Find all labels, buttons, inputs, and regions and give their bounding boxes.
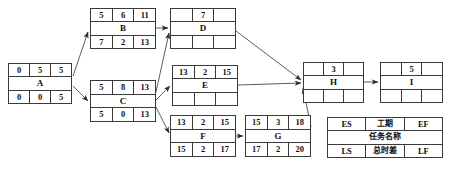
node-g-name: G <box>246 130 310 143</box>
node-d[interactable]: 7 D <box>170 8 236 49</box>
node-a-name-row: A <box>9 76 71 90</box>
node-h-es <box>304 63 323 75</box>
node-h-bottom-row <box>304 90 363 102</box>
node-g-ls: 17 <box>246 143 267 156</box>
node-h-ls <box>304 90 323 102</box>
node-h-top-row: 3 <box>304 63 363 75</box>
node-f-name-row: F <box>171 129 235 144</box>
node-d-name: D <box>171 22 235 34</box>
node-d-tf <box>192 36 214 48</box>
node-e-lf <box>215 93 237 105</box>
node-i-ls <box>381 90 401 102</box>
legend-top-row: ES 工期 EF <box>328 118 442 130</box>
node-i-lf <box>421 90 442 102</box>
edge-c-to-e <box>156 86 170 100</box>
node-d-es <box>171 9 192 21</box>
legend-name-row: 任务名称 <box>328 130 442 144</box>
node-d-ls <box>171 36 192 48</box>
node-e-name-row: E <box>173 78 237 92</box>
node-c-name: C <box>91 95 155 108</box>
node-d-lf <box>213 36 235 48</box>
node-b-ef: 11 <box>133 9 155 21</box>
node-g-name-row: G <box>246 129 310 144</box>
node-h-name-row: H <box>304 75 363 89</box>
node-f[interactable]: 13 2 15 F 15 2 17 <box>170 115 236 157</box>
node-f-ls: 15 <box>171 143 192 156</box>
node-a-name: A <box>9 77 71 89</box>
legend-ef-label: EF <box>404 118 442 130</box>
node-i-ef <box>421 63 442 75</box>
node-g-top-row: 15 3 18 <box>246 116 310 129</box>
node-b[interactable]: 5 6 11 B 7 2 13 <box>90 8 156 49</box>
edge-c-to-d <box>156 33 169 92</box>
node-c-name-row: C <box>91 94 155 109</box>
node-i-es <box>381 63 401 75</box>
network-diagram-canvas: 0 5 5 A 0 0 5 5 6 11 B 7 2 13 5 <box>0 0 450 169</box>
node-i-name: I <box>381 76 442 88</box>
node-i-tf <box>401 90 422 102</box>
node-h-ef <box>343 63 363 75</box>
node-g-tf: 2 <box>267 143 289 156</box>
node-c[interactable]: 5 8 13 C 5 0 13 <box>90 80 156 122</box>
node-c-ls: 5 <box>91 108 112 121</box>
node-c-ef: 13 <box>133 81 155 94</box>
node-b-top-row: 5 6 11 <box>91 9 155 21</box>
legend-es-label: ES <box>328 118 365 130</box>
node-e-name: E <box>173 79 237 91</box>
node-b-name: B <box>91 22 155 34</box>
node-e-es: 13 <box>173 66 194 78</box>
node-g[interactable]: 15 3 18 G 17 2 20 <box>245 115 311 157</box>
node-h-name: H <box>304 76 363 88</box>
node-e-top-row: 13 2 15 <box>173 66 237 78</box>
node-a-top-row: 0 5 5 <box>9 64 71 76</box>
node-a-ls: 0 <box>9 91 29 103</box>
node-a[interactable]: 0 5 5 A 0 0 5 <box>8 63 72 104</box>
node-i-bottom-row <box>381 90 442 102</box>
node-f-duration: 2 <box>192 116 214 129</box>
node-c-es: 5 <box>91 81 112 94</box>
node-h[interactable]: 3 H <box>303 62 364 103</box>
node-c-top-row: 5 8 13 <box>91 81 155 94</box>
edge-a-to-b <box>73 32 88 76</box>
edge-c-to-f <box>156 107 169 133</box>
node-g-duration: 3 <box>267 116 289 129</box>
edge-e-to-h <box>238 83 301 85</box>
node-f-ef: 15 <box>213 116 235 129</box>
node-i-duration: 5 <box>401 63 422 75</box>
node-a-lf: 5 <box>50 91 71 103</box>
node-h-lf <box>343 90 363 102</box>
node-a-tf: 0 <box>29 91 50 103</box>
node-c-tf: 0 <box>112 108 134 121</box>
edge-a-to-c <box>73 86 88 101</box>
node-d-name-row: D <box>171 21 235 35</box>
node-b-duration: 6 <box>112 9 134 21</box>
node-c-duration: 8 <box>112 81 134 94</box>
node-f-tf: 2 <box>192 143 214 156</box>
node-d-top-row: 7 <box>171 9 235 21</box>
node-i-name-row: I <box>381 75 442 89</box>
node-b-bottom-row: 7 2 13 <box>91 36 155 48</box>
node-e-ef: 15 <box>215 66 237 78</box>
node-f-lf: 17 <box>213 143 235 156</box>
node-d-duration: 7 <box>192 9 214 21</box>
node-e[interactable]: 13 2 15 E <box>172 65 238 106</box>
node-f-es: 13 <box>171 116 192 129</box>
node-i-top-row: 5 <box>381 63 442 75</box>
node-a-duration: 5 <box>29 64 50 76</box>
node-g-ef: 18 <box>288 116 310 129</box>
legend-total-float-label: 总时差 <box>365 145 403 157</box>
legend-task-name-label: 任务名称 <box>328 131 442 143</box>
node-g-es: 15 <box>246 116 267 129</box>
node-f-bottom-row: 15 2 17 <box>171 143 235 156</box>
node-i[interactable]: 5 I <box>380 62 443 103</box>
legend-duration-label: 工期 <box>365 118 403 130</box>
node-h-tf <box>323 90 343 102</box>
node-a-es: 0 <box>9 64 29 76</box>
node-c-lf: 13 <box>133 108 155 121</box>
node-a-bottom-row: 0 0 5 <box>9 91 71 103</box>
node-b-lf: 13 <box>133 36 155 48</box>
node-e-ls <box>173 93 194 105</box>
node-g-lf: 20 <box>288 143 310 156</box>
legend-key-box: ES 工期 EF 任务名称 LS 总时差 LF <box>327 117 443 158</box>
node-a-ef: 5 <box>50 64 71 76</box>
